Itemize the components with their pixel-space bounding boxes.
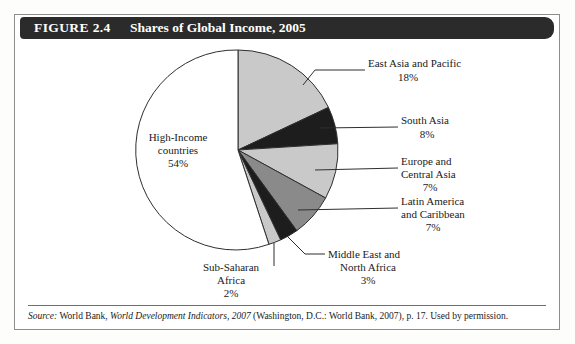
pie-chart-svg: East Asia and Pacific 18% South Asia 8% … xyxy=(15,40,559,298)
label-middle-east-percent: 3% xyxy=(361,274,376,286)
label-europe-percent: 7% xyxy=(423,181,438,193)
pie-chart-area: East Asia and Pacific 18% South Asia 8% … xyxy=(15,40,559,298)
figure-title: Shares of Global Income, 2005 xyxy=(130,20,306,36)
label-latin-america-percent: 7% xyxy=(426,221,441,233)
label-east-asia-name: East Asia and Pacific xyxy=(368,57,461,69)
label-south-asia-name: South Asia xyxy=(401,114,449,126)
figure-number: FIGURE 2.4 xyxy=(34,20,111,36)
label-high-income-line2: countries xyxy=(158,144,198,156)
source-note: Source: World Bank, World Development In… xyxy=(28,310,548,323)
label-europe-line2: Central Asia xyxy=(401,168,456,180)
source-publication-title: World Development Indicators, 2007 xyxy=(110,311,251,321)
label-latin-america-line2: and Caribbean xyxy=(401,208,465,220)
leader-line-middle-east xyxy=(287,236,325,254)
label-europe-line1: Europe and xyxy=(401,155,452,167)
label-south-asia-percent: 8% xyxy=(420,128,435,140)
label-sub-saharan-line2: Africa xyxy=(217,274,245,286)
source-divider xyxy=(28,305,546,306)
label-sub-saharan-line1: Sub-Saharan xyxy=(203,261,260,273)
label-sub-saharan-percent: 2% xyxy=(224,287,239,298)
source-label: Source: xyxy=(28,311,57,321)
label-middle-east-line2: North Africa xyxy=(340,261,396,273)
source-part2: (Washington, D.C.: World Bank, 2007), p.… xyxy=(251,311,508,321)
label-east-asia-percent: 18% xyxy=(398,71,418,83)
label-middle-east-line1: Middle East and xyxy=(328,248,401,260)
label-high-income-line1: High-Income xyxy=(149,131,208,143)
figure-page: FIGURE 2.4 Shares of Global Income, 2005… xyxy=(0,0,575,344)
label-high-income-percent: 54% xyxy=(168,157,188,169)
figure-title-bar: FIGURE 2.4 Shares of Global Income, 2005 xyxy=(20,17,554,39)
source-part1: World Bank, xyxy=(57,311,110,321)
label-latin-america-line1: Latin America xyxy=(401,195,464,207)
